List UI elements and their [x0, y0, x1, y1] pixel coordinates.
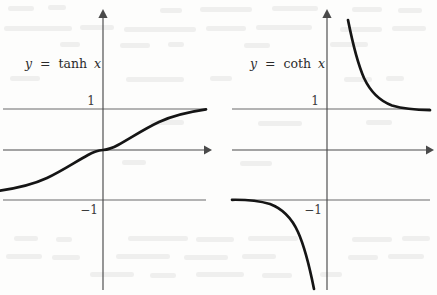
coth-label-eq: = — [265, 56, 275, 71]
tanh-y-axis-arrowhead — [98, 9, 107, 18]
coth-tick-label-negative-one: −1 — [304, 203, 322, 217]
tanh-equation-label: y = tanh x — [24, 56, 101, 71]
coth-tick-label-positive-one: 1 — [311, 94, 319, 108]
tanh-x-axis-arrowhead — [204, 145, 212, 154]
tanh-panel: y = tanh x 1 −1 — [0, 9, 212, 290]
coth-curve-negative-branch — [232, 200, 314, 289]
tanh-label-x: x — [94, 56, 101, 71]
coth-y-axis-arrowhead — [322, 9, 331, 18]
coth-label-x: x — [318, 56, 325, 71]
tanh-tick-label-positive-one: 1 — [87, 94, 95, 108]
tanh-label-y: y — [24, 56, 33, 71]
tanh-label-fn: tanh — [59, 56, 88, 71]
tanh-tick-label-negative-one: −1 — [80, 203, 98, 217]
coth-label-fn: coth — [284, 56, 312, 71]
tanh-label-eq: = — [40, 56, 50, 71]
coth-curve-positive-branch — [348, 20, 430, 110]
coth-x-axis-arrowhead — [426, 145, 434, 154]
coth-equation-label: y = coth x — [249, 56, 325, 71]
coth-panel: y = coth x 1 −1 — [232, 9, 434, 290]
coth-label-y: y — [249, 56, 258, 71]
hyperbolic-functions-figure: y = tanh x 1 −1 y = coth x 1 −1 — [0, 0, 437, 295]
